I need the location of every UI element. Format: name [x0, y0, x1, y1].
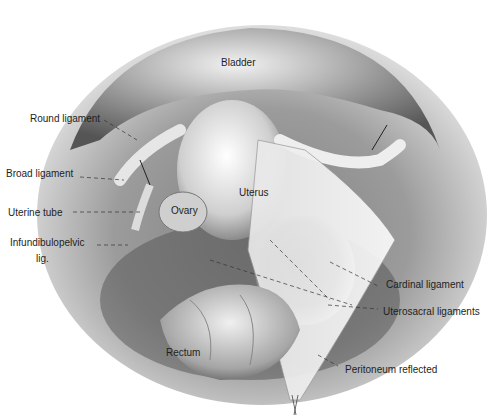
label-uterus: Uterus — [239, 187, 268, 199]
anatomy-illustration: Bladder Round ligament Broad ligament Ut… — [0, 0, 492, 420]
label-infundibulopelvic: Infundibulopelvic — [10, 237, 85, 249]
label-broad-ligament: Broad ligament — [6, 168, 73, 180]
label-rectum: Rectum — [166, 347, 200, 359]
label-infundibulopelvic-lig: lig. — [36, 253, 49, 265]
label-uterine-tube: Uterine tube — [8, 207, 62, 219]
label-ovary: Ovary — [171, 205, 198, 217]
label-bladder: Bladder — [221, 57, 255, 69]
label-uterosacral-ligaments: Uterosacral ligaments — [383, 306, 480, 318]
label-cardinal-ligament: Cardinal ligament — [386, 279, 464, 291]
label-peritoneum-reflected: Peritoneum reflected — [345, 364, 437, 376]
label-round-ligament: Round ligament — [30, 113, 100, 125]
